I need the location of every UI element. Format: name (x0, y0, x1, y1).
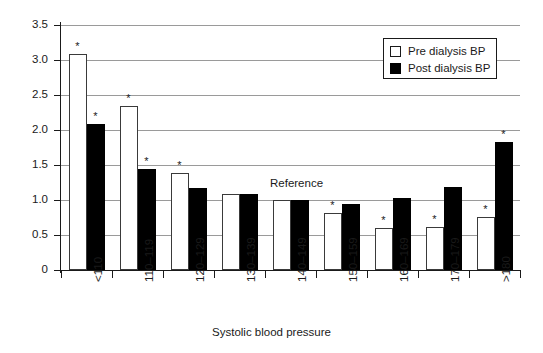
y-axis-tick (54, 200, 61, 201)
y-axis-tick (54, 235, 61, 236)
y-axis-tick (54, 25, 61, 26)
bar-pre (375, 228, 393, 270)
bar-pre (120, 106, 138, 271)
y-axis-tick (54, 165, 61, 166)
bar-pre (426, 227, 444, 270)
significance-marker: * (86, 111, 106, 122)
x-axis-tick (61, 271, 62, 278)
x-axis-tick (469, 271, 470, 278)
x-axis-tick (367, 271, 368, 278)
significance-marker: * (494, 129, 514, 140)
x-axis-category-label: 130–139 (246, 237, 258, 282)
y-axis-tick (54, 270, 61, 271)
x-axis-category-label: <110 (93, 257, 105, 282)
significance-marker: * (425, 214, 445, 225)
legend-label-post: Post dialysis BP (408, 62, 490, 74)
y-axis-tick-label: 1.5 (0, 159, 48, 171)
x-axis-category-label: 150–159 (348, 237, 360, 282)
y-axis-tick-label: 0.5 (0, 229, 48, 241)
bar-post (87, 124, 105, 270)
bar-pre (222, 194, 240, 270)
open-square-swatch-icon (390, 46, 401, 57)
y-axis-tick-label: 3.5 (0, 19, 48, 31)
bar-post (495, 142, 513, 270)
bar-pre (324, 213, 342, 270)
bar-pre (69, 54, 87, 270)
x-axis-tick (214, 271, 215, 278)
x-axis-tick (265, 271, 266, 278)
bar-pre (171, 173, 189, 270)
y-axis-tick (54, 95, 61, 96)
legend-item-pre: Pre dialysis BP (390, 43, 496, 59)
significance-marker: * (323, 200, 343, 211)
y-axis-tick (54, 130, 61, 131)
legend-label-pre: Pre dialysis BP (408, 45, 485, 57)
significance-marker: * (68, 41, 88, 52)
y-axis-tick-label: 1.0 (0, 194, 48, 206)
filled-square-swatch-icon (390, 63, 401, 74)
x-axis-tick (316, 271, 317, 278)
bar-chart-figure: Relative risk 00.51.01.52.02.53.03.5 ***… (0, 0, 543, 353)
x-axis-tick (163, 271, 164, 278)
x-axis-category-label: 110–119 (144, 239, 156, 282)
significance-marker: * (170, 160, 190, 171)
significance-marker: * (374, 215, 394, 226)
significance-marker: * (476, 204, 496, 215)
x-axis-tick (112, 271, 113, 278)
x-axis-tick (418, 271, 419, 278)
chart-legend: Pre dialysis BP Post dialysis BP (383, 38, 497, 79)
legend-item-post: Post dialysis BP (390, 60, 496, 76)
reference-annotation: Reference (270, 177, 323, 189)
x-axis-category-label: 170–179 (450, 237, 462, 282)
y-axis-tick-label: 0 (0, 264, 48, 276)
significance-marker: * (137, 156, 157, 167)
y-axis-tick-label: 2.5 (0, 89, 48, 101)
bar-pre (477, 217, 495, 270)
x-axis-category-label: 160–169 (399, 237, 411, 282)
gridline (61, 25, 520, 26)
y-axis-tick-label: 2.0 (0, 124, 48, 136)
x-axis-category-label: 120–129 (195, 237, 207, 282)
significance-marker: * (119, 93, 139, 104)
x-axis-title: Systolic blood pressure (0, 326, 543, 338)
x-axis-category-label: 140–149 (297, 237, 309, 282)
x-axis-category-label: >180 (501, 256, 513, 282)
x-axis-tick (520, 271, 521, 278)
y-axis-tick (54, 60, 61, 61)
y-axis-tick-label: 3.0 (0, 54, 48, 66)
bar-pre (273, 200, 291, 270)
